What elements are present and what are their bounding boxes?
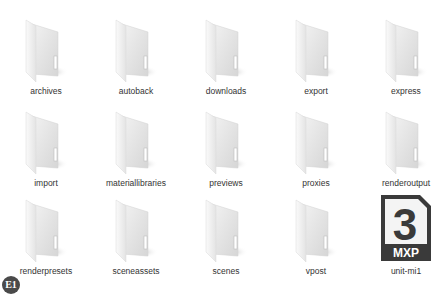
item-label: materiallibraries xyxy=(91,178,181,188)
folder-item[interactable]: scenes xyxy=(186,188,266,280)
folder-icon xyxy=(294,108,338,176)
item-label: unit-mi1 xyxy=(361,266,441,276)
folder-item[interactable]: vpost xyxy=(276,188,356,280)
folder-icon xyxy=(24,16,68,84)
folder-icon xyxy=(24,196,68,264)
folder-icon xyxy=(114,16,158,84)
folder-icon xyxy=(384,108,428,176)
folder-item[interactable]: renderpresets xyxy=(6,188,86,280)
folder-icon xyxy=(294,16,338,84)
item-label: scenes xyxy=(181,266,271,276)
item-label: express xyxy=(361,86,441,96)
item-label: downloads xyxy=(181,86,271,96)
folder-icon xyxy=(294,196,338,264)
svg-text:MXP: MXP xyxy=(393,246,419,260)
folder-item[interactable]: proxies xyxy=(276,100,356,192)
folder-icon xyxy=(114,196,158,264)
item-label: archives xyxy=(1,86,91,96)
folder-item[interactable]: express xyxy=(366,8,441,100)
folder-icon xyxy=(114,108,158,176)
folder-item[interactable]: import xyxy=(6,100,86,192)
folder-item[interactable]: previews xyxy=(186,100,266,192)
mxp-file-icon: 3 MXP xyxy=(380,194,432,262)
file-grid: archives autoback downloads xyxy=(0,0,441,270)
item-label: export xyxy=(271,86,361,96)
item-label: import xyxy=(1,178,91,188)
folder-icon xyxy=(204,196,248,264)
item-label: proxies xyxy=(271,178,361,188)
file-item[interactable]: 3 MXP unit-mi1 xyxy=(366,188,441,280)
folder-item[interactable]: sceneassets xyxy=(96,188,176,280)
folder-icon xyxy=(204,108,248,176)
folder-item[interactable]: archives xyxy=(6,8,86,100)
item-label: autoback xyxy=(91,86,181,96)
folder-icon xyxy=(384,16,428,84)
item-label: renderpresets xyxy=(1,266,91,276)
svg-text:3: 3 xyxy=(393,200,417,249)
item-label: sceneassets xyxy=(91,266,181,276)
folder-item[interactable]: autoback xyxy=(96,8,176,100)
item-label: vpost xyxy=(271,266,361,276)
item-label: renderoutput xyxy=(361,178,441,188)
folder-item[interactable]: export xyxy=(276,8,356,100)
folder-icon xyxy=(24,108,68,176)
item-label: previews xyxy=(181,178,271,188)
folder-item[interactable]: materiallibraries xyxy=(96,100,176,192)
folder-icon xyxy=(204,16,248,84)
figure-badge: E1 xyxy=(2,276,20,294)
folder-item[interactable]: downloads xyxy=(186,8,266,100)
folder-item[interactable]: renderoutput xyxy=(366,100,441,192)
